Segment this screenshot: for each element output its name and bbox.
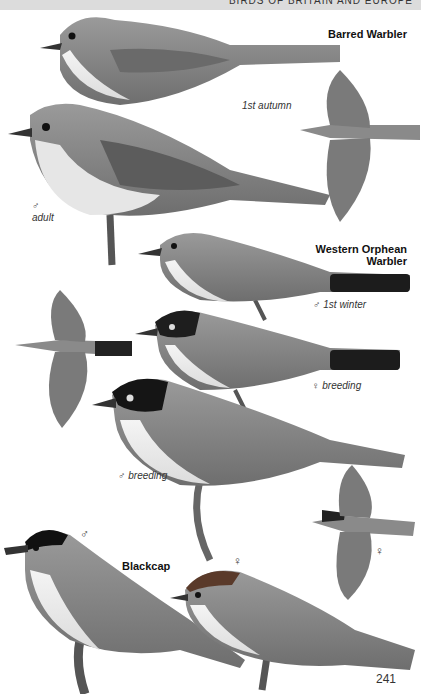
species-name-barred-warbler: Barred Warbler (328, 28, 407, 40)
caption-orphean-1st-winter: ♂ 1st winter (313, 299, 366, 310)
caption-blackcap-male: ♂ (80, 527, 89, 541)
caption-orphean-female-breeding: ♀ breeding (312, 380, 361, 391)
species-name-western-orphean-warbler: Western Orphean Warbler (316, 243, 408, 267)
page-number: 241 (376, 672, 396, 686)
caption-blackcap-female: ♀ (233, 554, 242, 568)
caption-orphean-male-breeding: ♂ breeding (118, 470, 167, 481)
species-name-line2: Warbler (316, 255, 408, 267)
species-name-line1: Western Orphean (316, 243, 408, 255)
caption-barred-1st-autumn: 1st autumn (242, 100, 291, 111)
caption-adult-text: adult (32, 212, 54, 224)
blackcap-female-flight-illustration (312, 465, 415, 600)
male-symbol: ♂ (32, 200, 54, 212)
caption-barred-adult: ♂ adult (32, 200, 54, 224)
species-name-blackcap: Blackcap (122, 560, 170, 572)
illustration-plate (0, 0, 421, 694)
caption-blackcap-flight-female: ♀ (375, 544, 384, 558)
